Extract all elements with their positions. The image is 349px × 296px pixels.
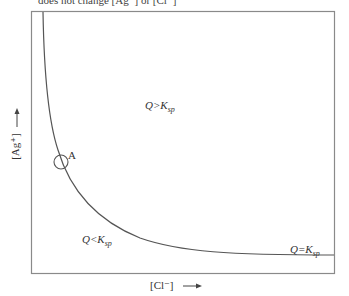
region-below-q: Q<K xyxy=(82,233,105,245)
region-label-below: Q<Ksp xyxy=(82,233,112,248)
region-below-sub: sp xyxy=(105,239,112,248)
region-on-curve-q: Q=K xyxy=(290,243,313,255)
region-above-q: Q>K xyxy=(145,99,168,111)
x-axis-label: [Cl⁻] xyxy=(150,279,174,292)
region-above-sub: sp xyxy=(168,105,175,114)
region-label-above: Q>Ksp xyxy=(145,99,175,114)
x-arrow-icon xyxy=(196,284,202,289)
point-a-label: A xyxy=(68,149,76,161)
y-arrow-icon xyxy=(15,108,20,114)
region-label-on-curve: Q=Ksp xyxy=(290,243,320,258)
plot-frame xyxy=(32,12,335,274)
y-axis-label: [Ag⁺] xyxy=(9,117,22,177)
ksp-curve xyxy=(43,12,334,255)
point-a-circle xyxy=(54,155,68,169)
region-on-curve-sub: sp xyxy=(313,249,320,258)
